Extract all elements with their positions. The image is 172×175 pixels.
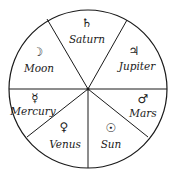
moon-icon: ☽	[33, 46, 44, 58]
jupiter-icon: ♃	[129, 45, 140, 57]
saturn-icon: ♄	[82, 17, 93, 29]
moon-label: Moon	[24, 63, 54, 74]
mercury-label: Mercury	[10, 106, 56, 117]
mercury-icon: ☿	[31, 92, 38, 104]
venus-label: Venus	[49, 139, 81, 150]
sun-label: Sun	[101, 139, 122, 150]
saturn-label: Saturn	[69, 34, 105, 45]
center-point	[87, 88, 90, 91]
sun-icon: ☉	[106, 122, 117, 134]
venus-icon: ♀	[60, 121, 69, 133]
mars-label: Mars	[129, 108, 156, 119]
mars-icon: ♂	[138, 93, 149, 105]
jupiter-label: Jupiter	[119, 61, 156, 72]
